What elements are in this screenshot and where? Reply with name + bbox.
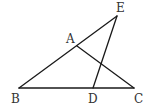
label-a: A — [65, 32, 75, 46]
segment-be — [19, 16, 117, 88]
label-b: B — [11, 92, 20, 106]
label-e: E — [116, 1, 125, 15]
triangle-diagram: E A B D C — [0, 0, 157, 109]
label-d: D — [88, 92, 98, 106]
label-c: C — [134, 92, 143, 106]
segment-ed — [93, 16, 117, 88]
